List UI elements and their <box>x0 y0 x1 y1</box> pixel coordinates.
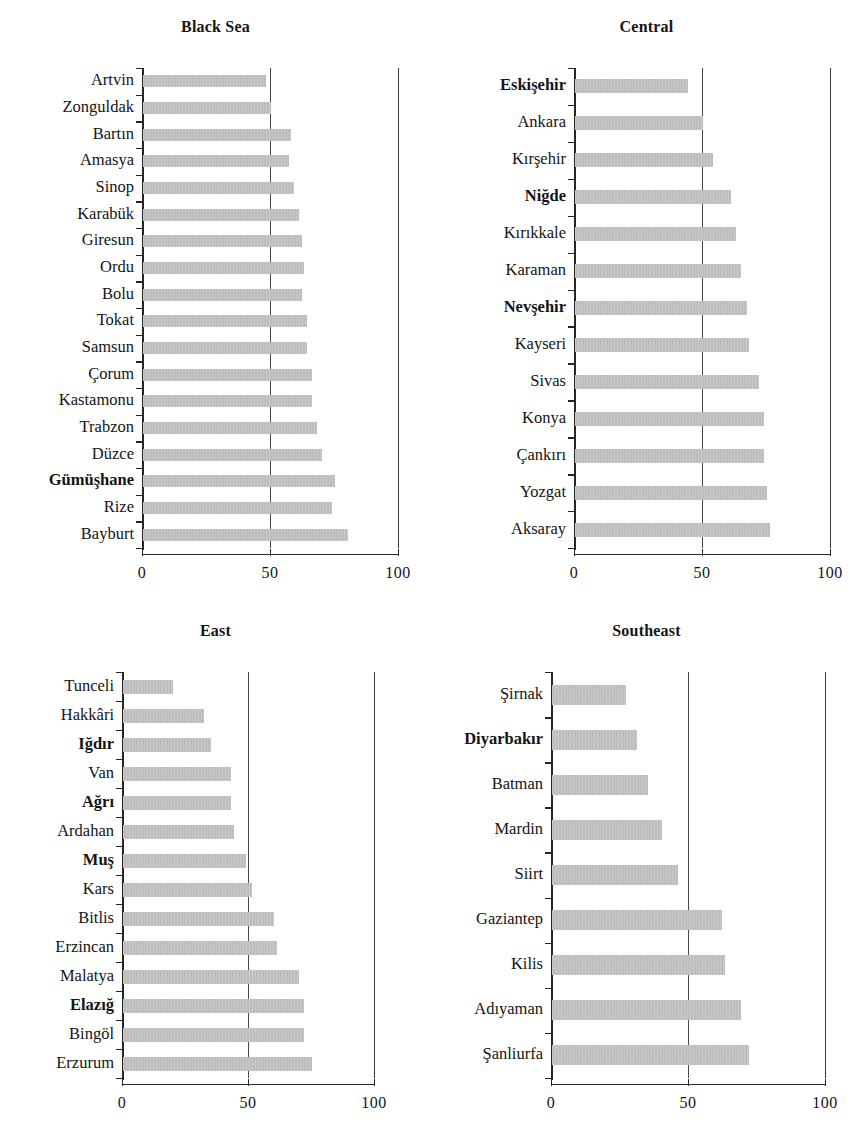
chart-panel-southeast: SoutheastŞirnakDiyarbakırBatmanMardinSii… <box>0 0 862 1131</box>
bar <box>552 910 722 930</box>
y-tick <box>545 852 551 853</box>
category-label: Batman <box>492 776 543 793</box>
y-tick <box>545 988 551 989</box>
y-tick <box>545 898 551 899</box>
x-tick <box>551 1079 552 1086</box>
y-tick <box>545 717 551 718</box>
x-tick-label: 50 <box>680 1094 697 1112</box>
y-tick <box>545 672 551 673</box>
category-label: Siirt <box>515 866 543 883</box>
bar <box>552 730 637 750</box>
panel-title: Southeast <box>431 622 862 640</box>
bar <box>552 865 678 885</box>
category-label: Şanliurfa <box>483 1046 543 1063</box>
category-label: Şirnak <box>500 686 543 703</box>
x-tick <box>825 1079 826 1086</box>
bar <box>552 775 648 795</box>
y-tick <box>545 943 551 944</box>
y-tick <box>545 807 551 808</box>
x-tick-label: 0 <box>547 1094 556 1112</box>
category-label: Diyarbakır <box>464 731 543 748</box>
bar <box>552 1045 749 1065</box>
bar <box>552 955 725 975</box>
bar <box>552 685 626 705</box>
bar <box>552 1000 741 1020</box>
category-label: Gaziantep <box>476 911 543 928</box>
x-tick-label: 100 <box>812 1094 838 1112</box>
y-tick <box>545 762 551 763</box>
figure-root: Black SeaArtvinZonguldakBartınAmasyaSino… <box>0 0 862 1131</box>
category-label: Adıyaman <box>474 1001 543 1018</box>
bar <box>552 820 662 840</box>
x-tick <box>688 1079 689 1086</box>
category-label: Kilis <box>511 956 543 973</box>
y-tick <box>545 1033 551 1034</box>
category-label: Mardin <box>494 821 543 838</box>
reference-line-100 <box>825 672 826 1078</box>
